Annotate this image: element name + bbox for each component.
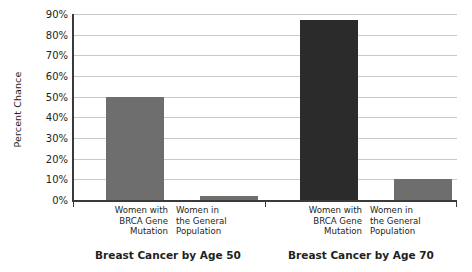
category-label-general-age-70: Women in the General Population [370,205,472,237]
gridline-80 [72,35,457,36]
group-title-age-70: Breast Cancer by Age 70 [265,249,457,261]
category-label-line: Mutation [64,226,168,237]
group-title-age-50: Breast Cancer by Age 50 [72,249,264,261]
gridline-60 [72,76,457,77]
y-tick-label: 50% [34,93,68,103]
y-tick-label: 20% [34,155,68,165]
category-label-line: Women with [258,205,362,216]
category-label-line: Mutation [258,226,362,237]
bar-brca-age-70 [300,20,358,200]
y-tick-label: 90% [34,10,68,20]
y-axis-tick-labels: 90% 80% 70% 60% 50% 40% 30% 20% 10% 0% [30,14,68,200]
category-label-line: Women with [64,205,168,216]
gridline-90 [72,14,457,15]
category-label-line: BRCA Gene [258,216,362,227]
y-axis-line [72,14,74,201]
category-label-brca-age-70: Women with BRCA Gene Mutation [258,205,362,237]
y-tick-label: 80% [34,31,68,41]
category-label-line: Population [370,226,472,237]
category-label-line: BRCA Gene [64,216,168,227]
bar-general-age-70 [394,179,452,200]
y-tick-label: 40% [34,113,68,123]
y-tick-label: 10% [34,175,68,185]
gridline-70 [72,55,457,56]
plot-area [72,14,457,200]
y-axis-title: Percent Chance [12,50,23,170]
category-label-line: the General [370,216,472,227]
category-label-brca-age-50: Women with BRCA Gene Mutation [64,205,168,237]
y-tick-label: 0% [34,196,68,206]
bar-brca-age-50 [106,97,164,200]
category-label-line: Women in [370,205,472,216]
bar-general-age-50 [200,196,258,200]
bar-chart: Percent Chance 90% 80% 70% 60% 50% 40% 3… [0,0,472,272]
y-tick-label: 60% [34,72,68,82]
y-tick-label: 70% [34,51,68,61]
y-tick-label: 30% [34,134,68,144]
